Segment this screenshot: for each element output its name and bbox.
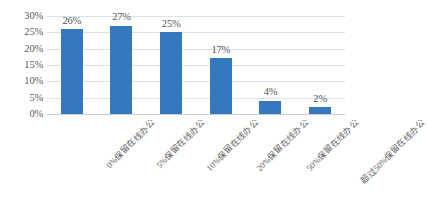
y-axis-tick-label: 25% (0, 27, 43, 38)
y-axis-tick-label: 20% (0, 44, 43, 55)
bar-value-label: 17% (212, 45, 231, 56)
bar[interactable] (210, 58, 232, 114)
bar-slot: 2% (295, 16, 345, 114)
bar[interactable] (110, 26, 132, 114)
x-axis-tick-label: 10%保留在线办公 (205, 118, 260, 173)
x-axis-tick-label: 超过50%保留在线办公 (360, 118, 427, 186)
x-axis-tick-label: 20%保留在线办公 (255, 118, 310, 173)
bar-value-label: 27% (112, 12, 131, 23)
bar[interactable] (61, 29, 83, 114)
bar-value-label: 26% (63, 16, 82, 27)
y-axis-tick-label: 15% (0, 60, 43, 71)
bar-slot: 27% (97, 16, 147, 114)
bar-slot: 4% (246, 16, 296, 114)
y-axis-tick-label: 5% (0, 93, 43, 104)
y-axis-tick-label: 10% (0, 76, 43, 87)
bar[interactable] (259, 101, 281, 114)
y-axis: 30%25%20%15%10%5%0% (0, 16, 43, 114)
bar-slot: 25% (146, 16, 196, 114)
bar-value-label: 4% (264, 87, 278, 98)
bar[interactable] (160, 32, 182, 114)
bar-value-label: 25% (162, 19, 181, 30)
bar-slot: 17% (196, 16, 246, 114)
x-axis-tick-label: 0%保留在线办公 (105, 118, 157, 170)
bars-container: 26%27%25%17%4%2% (47, 16, 345, 114)
bar-slot: 26% (47, 16, 97, 114)
bar-value-label: 2% (313, 94, 327, 105)
y-axis-tick-label: 30% (0, 11, 43, 22)
y-axis-tick-label: 0% (0, 109, 43, 120)
x-axis-tick-label: 5%保留在线办公 (154, 118, 206, 170)
x-axis-categories: 0%保留在线办公5%保留在线办公10%保留在线办公20%保留在线办公50%保留在… (47, 114, 345, 220)
x-axis-tick-label: 50%保留在线办公 (305, 118, 360, 173)
